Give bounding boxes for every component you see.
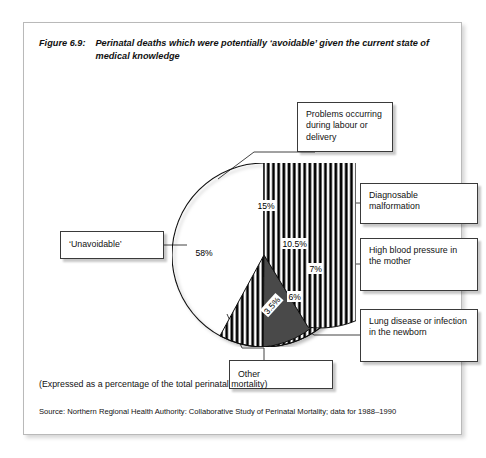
callout-unavoidable: ‘Unavoidable’ (60, 231, 164, 259)
pie-chart: 58% 15% 10.5% 7% 6% 3.5% (172, 163, 356, 347)
pie-value-labour: 15% (256, 200, 276, 211)
figure-number: Figure 6.9: (39, 37, 85, 62)
figure-footnote: (Expressed as a percentage of the total … (39, 378, 449, 390)
figure-source: Source: Northern Regional Health Authori… (39, 406, 449, 417)
figure-caption: Figure 6.9: Perinatal deaths which were … (39, 37, 447, 62)
pie-value-unavoidable: 58% (194, 247, 214, 258)
callout-lung-disease: Lung disease or infection in the newborn (360, 309, 478, 362)
callout-malformation: Diagnosable malformation (360, 183, 478, 224)
figure-frame: Figure 6.9: Perinatal deaths which were … (23, 22, 462, 435)
callout-labour: Problems occurring during labour or deli… (297, 102, 393, 152)
figure-title: Perinatal deaths which were potentially … (95, 37, 447, 62)
pie-value-lung: 6% (287, 291, 302, 302)
callout-blood-pressure: High blood pressure in the mother (360, 238, 478, 291)
pie-value-blood-pressure: 7% (308, 263, 323, 274)
pie-value-malformation: 10.5% (281, 238, 308, 249)
